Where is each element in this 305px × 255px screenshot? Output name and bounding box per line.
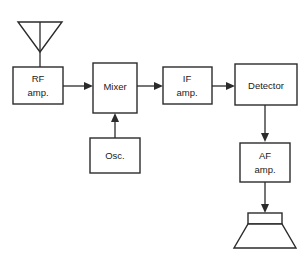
block-if-amp-label-line1: IF [183, 73, 192, 84]
arrowhead-icon [261, 204, 269, 213]
wire-rfamp-to-mixer [63, 82, 93, 90]
arrowhead-icon [261, 133, 269, 142]
arrowhead-icon [84, 82, 93, 90]
antenna-symbol [18, 22, 62, 67]
block-mixer[interactable]: Mixer [93, 63, 137, 113]
speaker-driver-icon [248, 213, 282, 224]
loudspeaker-symbol [234, 213, 296, 248]
diagram-canvas: RF amp. Mixer IF amp. Detector Osc. AF [0, 0, 305, 255]
block-af-amp-label-line1: AF [259, 150, 271, 161]
speaker-cone-icon [234, 224, 296, 248]
block-detector[interactable]: Detector [235, 64, 297, 105]
arrowhead-icon [226, 82, 235, 90]
wire-detector-to-afamp [261, 105, 269, 142]
block-diagram: RF amp. Mixer IF amp. Detector Osc. AF [0, 0, 305, 255]
arrowhead-icon [154, 82, 163, 90]
block-af-amp-label-line2: amp. [254, 164, 275, 175]
block-rf-amp[interactable]: RF amp. [13, 67, 63, 104]
block-osc[interactable]: Osc. [90, 138, 140, 173]
block-detector-label-line1: Detector [248, 80, 284, 91]
wire-ifamp-to-detector [212, 82, 235, 90]
block-if-amp[interactable]: IF amp. [163, 67, 212, 104]
wire-mixer-to-ifamp [137, 82, 163, 90]
block-mixer-label-line1: Mixer [103, 81, 126, 92]
wire-afamp-to-speaker [261, 182, 269, 213]
block-rf-amp-label-line1: RF [32, 73, 45, 84]
block-osc-label-line1: Osc. [105, 150, 125, 161]
block-rf-amp-label-line2: amp. [27, 87, 48, 98]
wire-osc-to-mixer [111, 113, 119, 138]
arrowhead-icon [111, 113, 119, 122]
block-af-amp[interactable]: AF amp. [240, 143, 290, 182]
block-if-amp-label-line2: amp. [176, 87, 197, 98]
